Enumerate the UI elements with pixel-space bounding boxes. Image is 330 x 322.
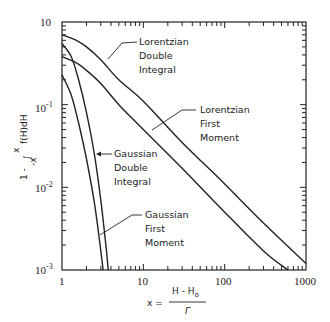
curve-gaussian-double-integral: [62, 44, 108, 271]
x-tick-label-2: 100: [215, 275, 232, 287]
svg-text:Double: Double: [114, 162, 148, 173]
x-tick-label-1: 10: [137, 275, 149, 287]
leader-lorentzian-double: [108, 42, 137, 59]
svg-text:Double: Double: [139, 50, 173, 61]
svg-text:x: x: [11, 147, 21, 153]
svg-text:Moment: Moment: [145, 237, 184, 248]
y-tick-label-1: 10-1: [35, 100, 53, 114]
svg-text:First: First: [145, 223, 165, 234]
leader-lorentzian-first: [152, 110, 196, 130]
y-axis-label: 1 - ∫ x -x f(H)dH: [11, 115, 38, 180]
y-tick-label-3: 10-3: [35, 262, 53, 276]
x-tick-label-0: 1: [59, 275, 65, 287]
svg-text:Integral: Integral: [139, 64, 176, 75]
svg-text:Gaussian: Gaussian: [114, 148, 158, 159]
annotation-lorentzian-first: Lorentzian First Moment: [200, 104, 250, 143]
svg-text:Gaussian: Gaussian: [145, 209, 189, 220]
svg-text:Integral: Integral: [114, 176, 151, 187]
x-tick-label-3: 1000: [294, 275, 317, 287]
svg-text:-x: -x: [28, 157, 38, 166]
svg-text:Γ: Γ: [185, 306, 191, 316]
arrow-gaussian-double-icon: [96, 152, 101, 157]
annotation-gaussian-first: Gaussian First Moment: [145, 209, 189, 248]
svg-text:Lorentzian: Lorentzian: [139, 36, 189, 47]
x-axis-label: x = H - Ho Γ: [147, 286, 206, 316]
chart: 10 10-1 10-2 10-3 1 10 100 1000 Lorentzi…: [0, 0, 330, 322]
svg-text:Moment: Moment: [200, 132, 239, 143]
annotation-lorentzian-double: Lorentzian Double Integral: [139, 36, 189, 75]
svg-text:f(H)dH: f(H)dH: [19, 115, 29, 144]
svg-text:x =: x =: [147, 298, 163, 308]
annotation-gaussian-double: Gaussian Double Integral: [114, 148, 158, 187]
svg-text:First: First: [200, 118, 220, 129]
svg-text:H - Ho: H - Ho: [172, 286, 199, 299]
leader-gaussian-first: [100, 215, 142, 235]
svg-text:Lorentzian: Lorentzian: [200, 104, 250, 115]
y-tick-label-0: 10: [40, 16, 52, 28]
y-tick-label-2: 10-2: [35, 180, 53, 194]
svg-text:1 -: 1 -: [19, 168, 29, 180]
y-tick-labels: 10 10-1 10-2 10-3: [35, 16, 53, 276]
